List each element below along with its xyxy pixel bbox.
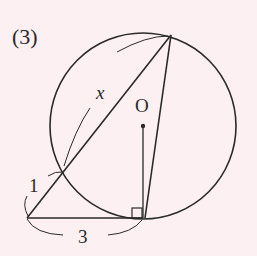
label-x: x: [95, 82, 105, 103]
center-point-O: [141, 124, 145, 128]
label-1: 1: [29, 175, 39, 196]
label-3: 3: [78, 226, 88, 247]
right-angle-marker: [132, 208, 142, 218]
label-center-O: O: [135, 95, 149, 116]
brace-x-lower: [64, 108, 90, 166]
brace-1-lower: [25, 196, 28, 216]
brace-3-left: [27, 219, 63, 235]
geometry-diagram: (3) O x 1 3: [0, 0, 257, 256]
problem-number: (3): [12, 24, 38, 49]
brace-3-right: [108, 220, 142, 235]
